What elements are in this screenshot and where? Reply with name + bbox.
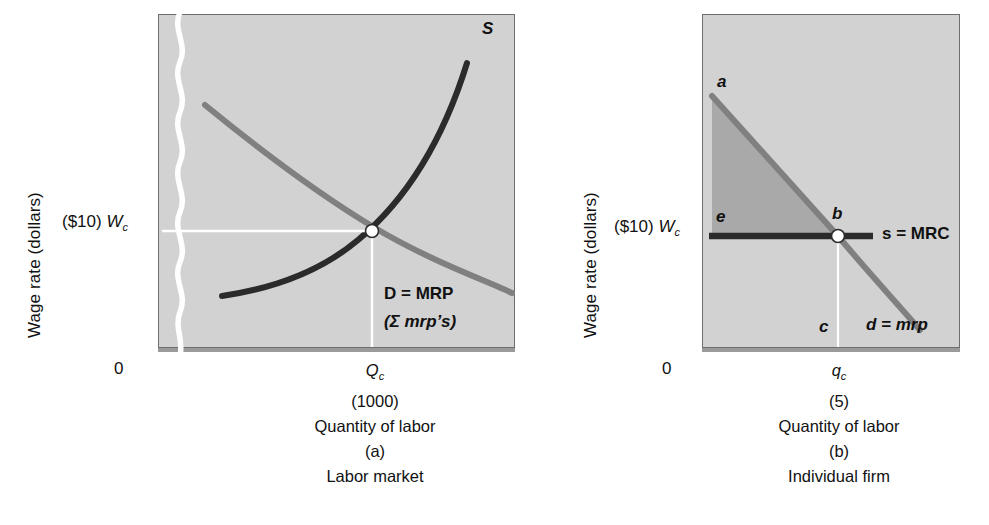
panel-b-wage-symbol: W: [658, 217, 674, 236]
panel-a-letter: (a): [230, 439, 520, 464]
panel-b-wage-tick-label: ($10) Wc: [614, 218, 680, 238]
panel-a-equilibrium-point: [366, 225, 379, 238]
panel-a-demand-curve-sublabel: (Σ mrp’s): [384, 313, 456, 330]
panel-a-wage-tick-label: ($10) Wc: [62, 213, 128, 233]
panel-b-wage-tick-value: ($10): [614, 217, 654, 236]
panel-b-title: Individual firm: [700, 464, 978, 489]
panel-a-axis-break: [178, 12, 183, 356]
panel-a-demand-curve: [205, 105, 512, 293]
panel-a-y-axis-title: Wage rate (dollars): [26, 192, 43, 338]
panel-b-y-axis-title: Wage rate (dollars): [582, 192, 599, 338]
point-label-a: a: [717, 73, 726, 90]
panel-a-x-axis-title: Quantity of labor: [230, 414, 520, 439]
panel-b-x-axis-title: Quantity of labor: [700, 414, 978, 439]
figure-root: Wage rate (dollars) ($10) Wc 0 S D = MRP…: [0, 0, 989, 525]
panel-a-origin-label: 0: [114, 360, 123, 377]
panel-b-quantity-tick-label: qc: [700, 358, 978, 389]
panel-a-wage-symbol-sub: c: [122, 221, 128, 233]
panel-b-supply-curve-label: s = MRC: [882, 225, 950, 242]
panel-b-letter: (b): [700, 439, 978, 464]
panel-a-quantity-value: (1000): [230, 389, 520, 414]
panel-a-quantity-tick-label: Qc: [230, 358, 520, 389]
point-label-e: e: [716, 208, 725, 225]
panel-a-title: Labor market: [230, 464, 520, 489]
panel-a-caption-block: Qc (1000) Quantity of labor (a) Labor ma…: [230, 358, 520, 489]
panel-a-wage-tick-value: ($10): [62, 212, 102, 231]
point-label-c: c: [819, 318, 828, 335]
point-label-b: b: [832, 205, 842, 222]
panel-b-wage-symbol-sub: c: [674, 226, 680, 238]
panel-b-quantity-value: (5): [700, 389, 978, 414]
panel-b-origin-label: 0: [662, 360, 671, 377]
panel-a-wage-symbol: W: [106, 212, 122, 231]
panel-a-demand-curve-label: D = MRP: [384, 285, 453, 302]
panel-b-equilibrium-point: [832, 230, 845, 243]
panel-b-demand-curve-label: d = mrp: [866, 316, 928, 333]
panel-b-caption-block: qc (5) Quantity of labor (b) Individual …: [700, 358, 978, 489]
panel-a-supply-curve: [222, 63, 467, 296]
panel-a-supply-curve-label: S: [482, 20, 493, 37]
